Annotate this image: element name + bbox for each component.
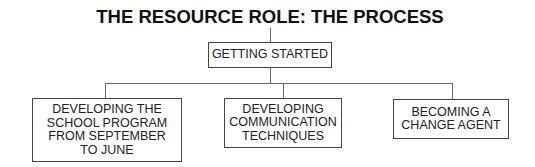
connector-to-child-3 bbox=[452, 83, 453, 99]
diagram-title: THE RESOURCE ROLE: THE PROCESS bbox=[0, 6, 535, 28]
node-label-line: DEVELOPING THE bbox=[47, 103, 167, 117]
connector-title-to-root bbox=[270, 28, 271, 42]
node-label-line: FROM SEPTEMBER bbox=[47, 130, 167, 144]
node-becoming-change-agent: BECOMING A CHANGE AGENT bbox=[393, 99, 509, 139]
node-label-line: COMMUNICATION bbox=[229, 116, 336, 130]
node-label: GETTING STARTED bbox=[212, 48, 328, 62]
connector-to-child-1 bbox=[105, 83, 106, 98]
node-getting-started: GETTING STARTED bbox=[208, 42, 332, 68]
connector-root-to-bus bbox=[270, 68, 271, 83]
node-label-line: DEVELOPING bbox=[229, 103, 336, 117]
node-label-line: SCHOOL PROGRAM bbox=[47, 117, 167, 131]
node-developing-communication-techniques: DEVELOPING COMMUNICATION TECHNIQUES bbox=[224, 98, 342, 148]
node-label-line: TO JUNE bbox=[47, 144, 167, 158]
node-label-line: TECHNIQUES bbox=[229, 130, 336, 144]
connector-to-child-2 bbox=[283, 83, 284, 98]
node-developing-school-program: DEVELOPING THE SCHOOL PROGRAM FROM SEPTE… bbox=[32, 98, 182, 162]
connector-bus bbox=[105, 83, 453, 84]
node-label-line: BECOMING A bbox=[401, 106, 500, 120]
node-label-line: CHANGE AGENT bbox=[401, 119, 500, 133]
